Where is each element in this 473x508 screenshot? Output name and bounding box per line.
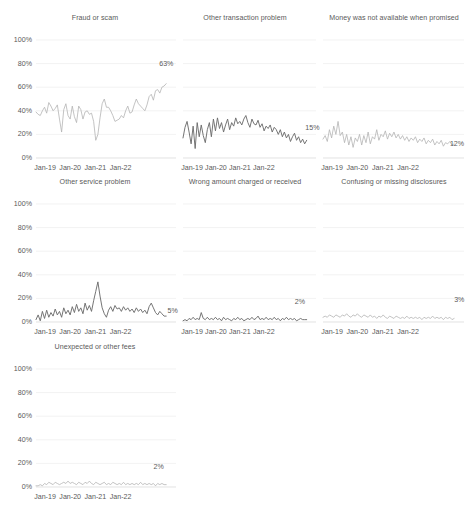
x-axis-tick-label: Jan-19 [181, 164, 203, 172]
panel-title: Fraud or scam [20, 14, 170, 24]
x-axis-tick-label: Jan-20 [205, 164, 227, 172]
x-axis-tick-label: Jan-19 [34, 493, 56, 501]
plot-area [323, 204, 464, 324]
y-axis-tick-label: 60% [2, 83, 32, 91]
x-axis-tick-label: Jan-22 [397, 328, 419, 336]
x-axis-tick-label: Jan-21 [229, 164, 251, 172]
x-axis-tick-label: Jan-22 [397, 164, 419, 172]
series-end-value-label: 5% [168, 307, 178, 315]
x-axis-tick-label: Jan-21 [85, 164, 107, 172]
y-axis-tick-label: 80% [2, 389, 32, 397]
y-axis-tick-label: 60% [2, 412, 32, 420]
x-axis-tick-label: Jan-19 [321, 164, 343, 172]
panel-title: Money was not available when promised [315, 14, 473, 24]
y-axis-tick-label: 0% [2, 318, 32, 326]
x-axis-tick-label: Jan-20 [59, 328, 81, 336]
plot-area [36, 369, 176, 489]
x-axis-tick-label: Jan-21 [85, 493, 107, 501]
x-axis-tick-label: Jan-22 [110, 164, 132, 172]
y-axis-tick-label: 40% [2, 107, 32, 115]
panel-title: Wrong amount charged or received [170, 178, 320, 188]
x-axis-tick-label: Jan-20 [59, 164, 81, 172]
series-line [183, 116, 307, 149]
x-axis-tick-label: Jan-22 [253, 164, 275, 172]
series-end-value-label: 2% [295, 298, 305, 306]
x-axis-tick-label: Jan-21 [372, 164, 394, 172]
series-line [323, 314, 454, 320]
y-axis-tick-label: 40% [2, 436, 32, 444]
x-axis-tick-label: Jan-19 [321, 328, 343, 336]
panel-title: Other transaction problem [170, 14, 320, 24]
y-axis-tick-label: 40% [2, 271, 32, 279]
plot-area [36, 204, 176, 324]
plot-area [183, 40, 316, 160]
small-multiples-figure: Fraud or scam100%80%60%40%20%0%63%Jan-19… [0, 0, 473, 508]
series-line [36, 84, 166, 141]
panel-title: Other service problem [20, 178, 170, 188]
panel-title: Unexpected or other fees [20, 343, 170, 353]
x-axis-tick-label: Jan-21 [229, 328, 251, 336]
y-axis-tick-label: 80% [2, 60, 32, 68]
y-axis-tick-label: 0% [2, 483, 32, 491]
series-end-value-label: 2% [154, 463, 164, 471]
x-axis-tick-label: Jan-20 [205, 328, 227, 336]
series-end-value-label: 63% [159, 60, 173, 68]
x-axis-tick-label: Jan-22 [110, 493, 132, 501]
y-axis-tick-label: 20% [2, 130, 32, 138]
y-axis-tick-label: 20% [2, 294, 32, 302]
x-axis-tick-label: Jan-22 [253, 328, 275, 336]
series-end-value-label: 15% [305, 124, 319, 132]
x-axis-tick-label: Jan-22 [110, 328, 132, 336]
series-end-value-label: 3% [454, 296, 464, 304]
series-line [36, 282, 166, 321]
x-axis-tick-label: Jan-20 [347, 328, 369, 336]
x-axis-tick-label: Jan-21 [85, 328, 107, 336]
x-axis-tick-label: Jan-19 [34, 164, 56, 172]
x-axis-tick-label: Jan-21 [372, 328, 394, 336]
x-axis-tick-label: Jan-20 [347, 164, 369, 172]
y-axis-tick-label: 0% [2, 154, 32, 162]
panel-title: Confusing or missing disclosures [315, 178, 473, 188]
y-axis-tick-label: 20% [2, 459, 32, 467]
y-axis-tick-label: 100% [2, 36, 32, 44]
y-axis-tick-label: 100% [2, 200, 32, 208]
plot-area [183, 204, 316, 324]
series-line [36, 481, 166, 486]
plot-area [323, 40, 464, 160]
y-axis-tick-label: 100% [2, 365, 32, 373]
series-end-value-label: 12% [450, 140, 464, 148]
x-axis-tick-label: Jan-19 [181, 328, 203, 336]
series-line [183, 313, 307, 321]
x-axis-tick-label: Jan-19 [34, 328, 56, 336]
y-axis-tick-label: 60% [2, 247, 32, 255]
x-axis-tick-label: Jan-20 [59, 493, 81, 501]
y-axis-tick-label: 80% [2, 224, 32, 232]
plot-area [36, 40, 176, 160]
